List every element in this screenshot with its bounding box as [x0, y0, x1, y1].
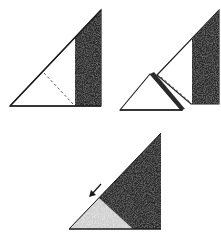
step-3 [69, 133, 161, 229]
step-2 [120, 10, 219, 110]
arrow-down-left-icon [89, 184, 101, 197]
step-1 [10, 10, 101, 106]
fold-diagram [0, 0, 221, 242]
